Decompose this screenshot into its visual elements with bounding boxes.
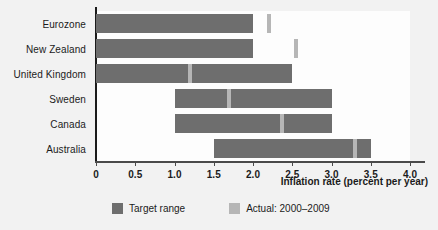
category-label-eurozone: Eurozone bbox=[0, 19, 86, 30]
x-tick-mark bbox=[175, 161, 176, 166]
legend-swatch-actual bbox=[229, 203, 240, 214]
x-tick-mark bbox=[96, 161, 97, 166]
bar-row bbox=[96, 114, 410, 133]
x-axis-line bbox=[95, 161, 425, 163]
legend-label: Target range bbox=[129, 203, 185, 214]
bar-row bbox=[96, 139, 410, 158]
actual-inflation-marker bbox=[188, 64, 192, 83]
bar-row bbox=[96, 64, 410, 83]
legend-item-actual: Actual: 2000–2009 bbox=[229, 203, 329, 214]
x-tick-label: 0 bbox=[93, 169, 99, 180]
actual-inflation-marker bbox=[227, 89, 231, 108]
plot-area: 00.51.01.52.02.53.03.54.0 bbox=[96, 11, 410, 161]
actual-inflation-marker bbox=[353, 139, 357, 158]
category-axis-labels: EurozoneNew ZealandUnited KingdomSwedenC… bbox=[0, 12, 92, 160]
inflation-target-chart: EurozoneNew ZealandUnited KingdomSwedenC… bbox=[0, 0, 438, 230]
x-tick-label: 1.0 bbox=[168, 169, 182, 180]
actual-inflation-marker bbox=[294, 39, 298, 58]
x-tick-mark bbox=[292, 161, 293, 166]
target-range-bar bbox=[214, 139, 371, 158]
target-range-bar bbox=[96, 39, 253, 58]
x-tick-mark bbox=[135, 161, 136, 166]
chart-legend: Target rangeActual: 2000–2009 bbox=[112, 203, 330, 214]
target-range-bar bbox=[96, 14, 253, 33]
bar-row bbox=[96, 39, 410, 58]
category-label-united-kingdom: United Kingdom bbox=[0, 69, 86, 80]
category-label-sweden: Sweden bbox=[0, 94, 86, 105]
x-axis-title: Inflation rate (percent per year) bbox=[281, 176, 428, 187]
x-tick-mark bbox=[371, 161, 372, 166]
x-tick-mark bbox=[214, 161, 215, 166]
x-tick-mark bbox=[332, 161, 333, 166]
x-tick-mark bbox=[253, 161, 254, 166]
bar-row bbox=[96, 14, 410, 33]
x-tick-mark bbox=[410, 161, 411, 166]
legend-label: Actual: 2000–2009 bbox=[246, 203, 329, 214]
bar-row bbox=[96, 89, 410, 108]
x-tick-label: 2.0 bbox=[246, 169, 260, 180]
target-range-bar bbox=[96, 64, 292, 83]
target-range-bar bbox=[175, 114, 332, 133]
category-label-new-zealand: New Zealand bbox=[0, 44, 86, 55]
legend-swatch-target bbox=[112, 203, 123, 214]
actual-inflation-marker bbox=[280, 114, 284, 133]
category-label-australia: Australia bbox=[0, 144, 86, 155]
legend-item-target: Target range bbox=[112, 203, 185, 214]
x-tick-label: 0.5 bbox=[128, 169, 142, 180]
category-label-canada: Canada bbox=[0, 119, 86, 130]
target-range-bar bbox=[175, 89, 332, 108]
x-tick-label: 1.5 bbox=[207, 169, 221, 180]
actual-inflation-marker bbox=[267, 14, 271, 33]
